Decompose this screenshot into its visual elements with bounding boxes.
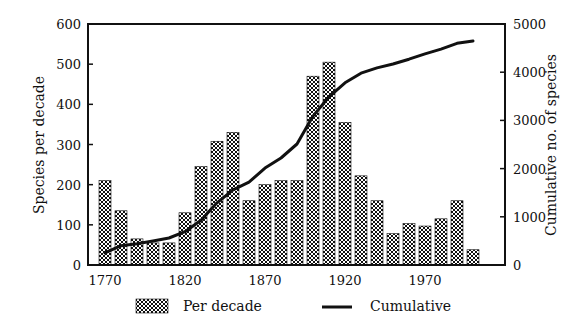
right-tick-label-1000: 1000: [513, 210, 546, 225]
bar-1950: [387, 234, 399, 265]
right-tick-label-2000: 2000: [513, 162, 546, 177]
right-tick-label-5000: 5000: [513, 17, 546, 32]
left-tick-label-600: 600: [56, 17, 81, 32]
x-axis-ticks: 17701820187019201970: [88, 273, 441, 288]
x-tick-label-1870: 1870: [248, 273, 281, 288]
bar-1920: [339, 122, 351, 265]
bars-group: [99, 62, 479, 265]
bar-1810: [163, 243, 175, 265]
bar-1860: [243, 201, 255, 265]
right-tick-label-0: 0: [513, 258, 521, 273]
left-axis-title: Species per decade: [31, 76, 47, 214]
bar-1890: [291, 181, 303, 265]
legend-label-per-decade: Per decade: [183, 298, 262, 314]
right-tick-label-3000: 3000: [513, 113, 546, 128]
left-tick-label-300: 300: [56, 138, 81, 153]
bar-1980: [435, 219, 447, 265]
x-tick-label-1920: 1920: [328, 273, 361, 288]
bar-1870: [259, 185, 271, 265]
x-tick-label-1970: 1970: [408, 273, 441, 288]
cumulative-line: [105, 41, 473, 253]
left-tick-label-0: 0: [73, 258, 81, 273]
bar-1820: [179, 213, 191, 265]
x-tick-label-1770: 1770: [88, 273, 121, 288]
left-tick-label-500: 500: [56, 57, 81, 72]
legend-label-cumulative: Cumulative: [370, 298, 451, 314]
right-axis-ticks: 010002000300040005000: [500, 17, 546, 273]
legend-swatch-per-decade: [136, 299, 168, 313]
cumulative-line-group: [105, 41, 473, 253]
bar-1960: [403, 224, 415, 265]
legend: Per decade Cumulative: [136, 298, 451, 314]
left-tick-label-200: 200: [56, 178, 81, 193]
right-axis-title: Cumulative no. of species: [543, 54, 559, 236]
left-tick-label-100: 100: [56, 218, 81, 233]
bar-1780: [115, 211, 127, 265]
left-tick-label-400: 400: [56, 97, 81, 112]
bar-2000: [467, 250, 479, 265]
bar-1930: [355, 176, 367, 265]
right-tick-label-4000: 4000: [513, 65, 546, 80]
bar-1880: [275, 181, 287, 265]
x-tick-label-1820: 1820: [168, 273, 201, 288]
bar-1900: [307, 76, 319, 265]
chart: 0100200300400500600 01000200030004000500…: [0, 0, 582, 334]
bar-1990: [451, 201, 463, 265]
bar-1850: [227, 132, 239, 265]
bar-1970: [419, 226, 431, 265]
bar-1940: [371, 201, 383, 265]
bar-1800: [147, 243, 159, 265]
